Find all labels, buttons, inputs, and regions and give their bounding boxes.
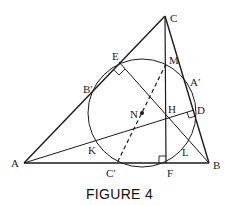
label-m: M xyxy=(169,54,179,66)
label-b-prime: B′ xyxy=(83,83,93,95)
label-d: D xyxy=(197,104,205,116)
label-c: C xyxy=(170,12,177,24)
label-a-prime: A′ xyxy=(190,76,200,88)
label-l: L xyxy=(182,146,189,158)
label-c-prime: C′ xyxy=(106,167,116,179)
right-angle-marker-e xyxy=(113,69,125,75)
label-e: E xyxy=(112,50,119,62)
label-a: A xyxy=(11,157,19,169)
altitude-cf xyxy=(165,16,166,163)
side-bc xyxy=(165,16,209,163)
label-f: F xyxy=(167,167,173,179)
figure-caption: FIGURE 4 xyxy=(86,186,153,202)
label-b: B xyxy=(213,159,220,171)
label-n: N xyxy=(130,108,138,120)
figure-diagram: C A B E M B′ A′ D N H K L C′ F FIGURE 4 xyxy=(0,0,231,205)
center-point-n xyxy=(140,111,144,115)
label-h: H xyxy=(168,103,176,115)
label-k: K xyxy=(88,144,96,156)
